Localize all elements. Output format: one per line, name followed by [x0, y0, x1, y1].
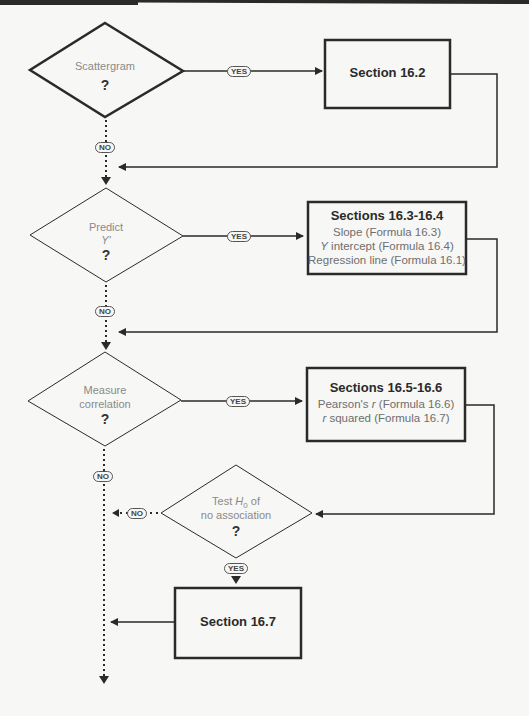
down-arrow-2: [101, 342, 111, 350]
box-16-5-line-1-prefix: Pearson's: [318, 398, 372, 410]
box-16-3-line-3: Regression line (Formula 16.1): [308, 253, 466, 267]
down-arrow-1: [101, 177, 111, 185]
return-connector-1: [119, 74, 497, 167]
yes-pill-3: YES: [226, 396, 250, 407]
box-16-5-line-1-suffix: (Formula 16.6): [376, 398, 455, 410]
decision-test-prefix: Test: [212, 495, 235, 507]
box-16-5-line-2-suffix: squared (Formula 16.7): [326, 412, 449, 424]
decision-test-label-2: no association: [186, 508, 286, 522]
box-16-3-line-1: Slope (Formula 16.3): [308, 225, 466, 239]
box-section-16-7-title: Section 16.7: [175, 614, 301, 629]
flowchart-canvas: [0, 0, 529, 716]
box-sections-16-5-16-6-title: Sections 16.5-16.6: [307, 380, 465, 395]
left-arrow-test-no: [112, 509, 119, 517]
decision-test-suffix: of: [248, 495, 260, 507]
no-pill-1: NO: [95, 142, 115, 153]
box-16-3-line-2-var: Y: [320, 240, 328, 252]
decision-measure-question: ?: [95, 411, 115, 427]
decision-test-question: ?: [226, 523, 246, 539]
decision-predict-label: Predict: [56, 220, 156, 234]
down-arrow-final: [99, 676, 109, 684]
yes-pill-1: YES: [227, 66, 251, 77]
decision-scattergram-label: Scattergram: [55, 59, 155, 73]
decision-predict-question: ?: [96, 247, 116, 263]
box-section-16-2-title: Section 16.2: [325, 65, 450, 80]
decision-measure-label-1: Measure: [55, 383, 155, 397]
box-16-3-line-2-text: intercept (Formula 16.4): [331, 240, 454, 252]
yes-pill-2: YES: [227, 231, 251, 242]
down-arrow-test-yes: [231, 576, 241, 584]
box-16-3-line-2: Y intercept (Formula 16.4): [308, 239, 466, 253]
no-pill-test: NO: [127, 508, 147, 519]
box-sections-16-3-16-4-title: Sections 16.3-16.4: [308, 208, 466, 223]
no-pill-3: NO: [93, 471, 113, 482]
decision-scattergram-question: ?: [95, 77, 115, 93]
decision-measure-label-2: correlation: [55, 397, 155, 411]
no-pill-2: NO: [95, 306, 115, 317]
box-16-5-line-2: r squared (Formula 16.7): [307, 411, 465, 425]
box-16-5-line-1: Pearson's r (Formula 16.6): [307, 397, 465, 411]
decision-predict-variable: Y': [56, 233, 156, 247]
yes-pill-test: YES: [224, 563, 248, 574]
